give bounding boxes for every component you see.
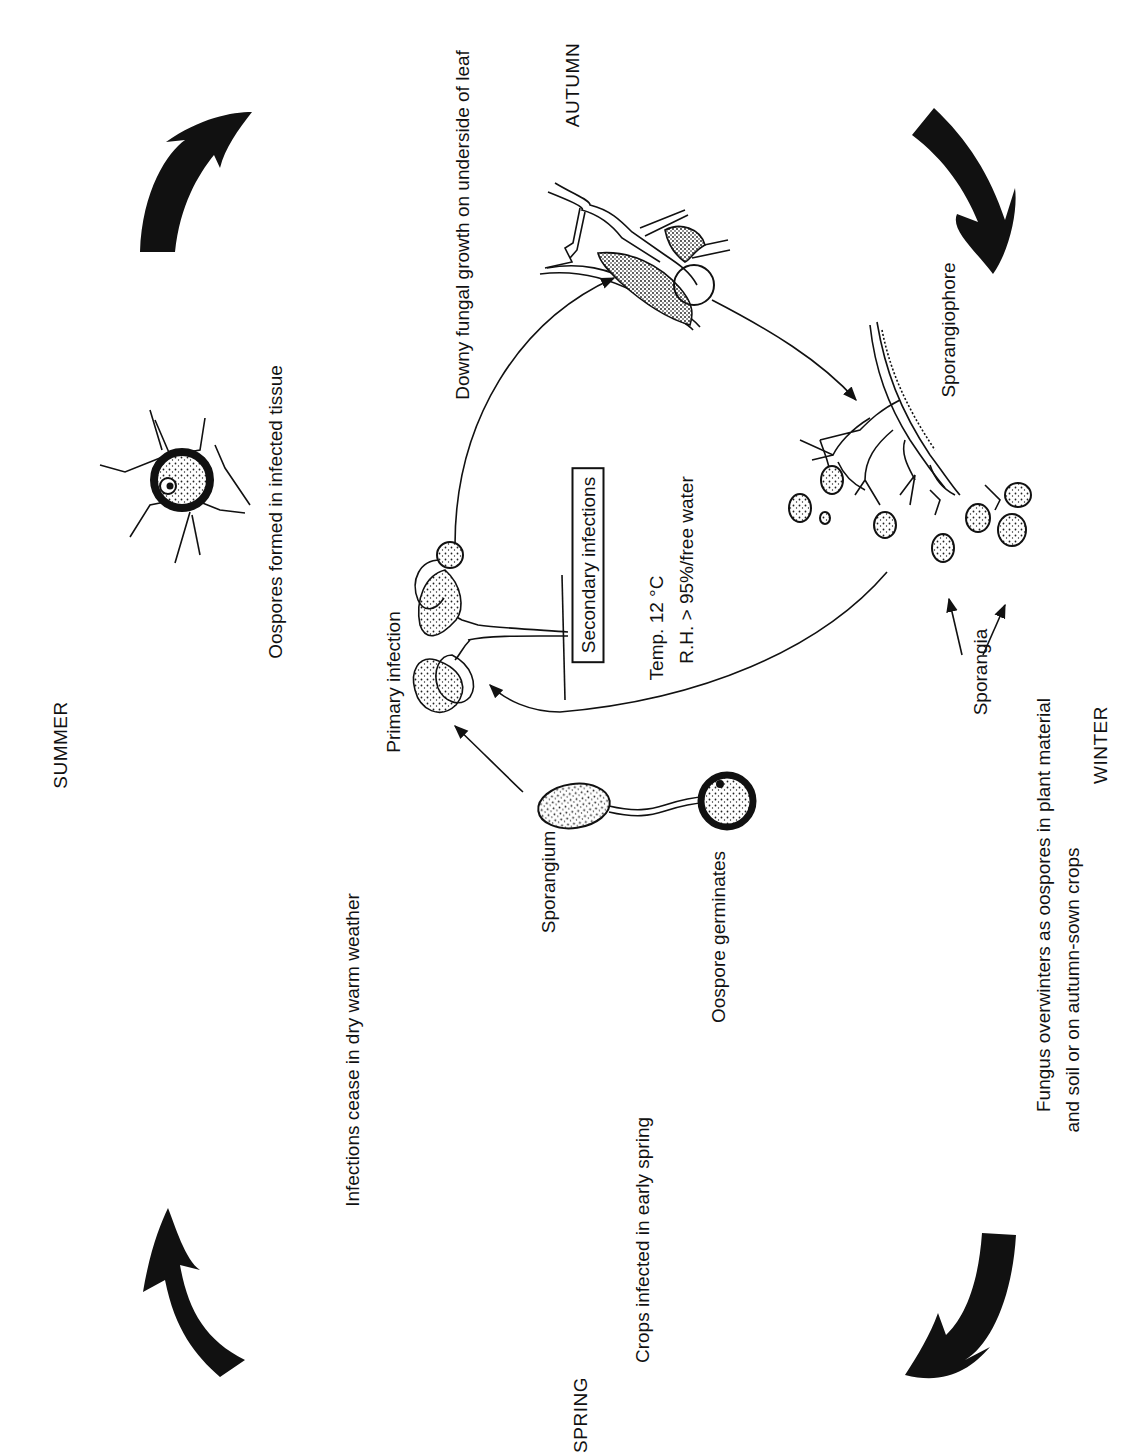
label-oospore-germinates: Oospore germinates bbox=[709, 851, 728, 1023]
label-sporangium: Sporangium bbox=[539, 831, 558, 933]
label-temperature: Temp. 12 °C bbox=[647, 576, 666, 681]
season-arrow-bottom-right bbox=[905, 1233, 1016, 1378]
label-overwinter-line2: and soil or on autumn-sown crops bbox=[1063, 847, 1082, 1132]
season-arrow-top-right bbox=[912, 108, 1016, 274]
season-label-spring: SPRING bbox=[571, 1377, 590, 1453]
label-primary-infection: Primary infection bbox=[384, 611, 403, 753]
season-label-autumn: AUTUMN bbox=[563, 43, 582, 127]
label-sporangiophore: Sporangiophore bbox=[939, 262, 958, 397]
label-crops-infected: Crops infected in early spring bbox=[633, 1117, 652, 1363]
infected-leaf-drawing bbox=[540, 183, 730, 330]
label-secondary-infections: Secondary infections bbox=[572, 467, 605, 663]
season-arrow-top-left bbox=[140, 112, 252, 252]
germinating-oospore-drawing bbox=[535, 775, 753, 833]
season-label-winter: WINTER bbox=[1091, 706, 1110, 784]
season-arrow-bottom-left bbox=[143, 1208, 245, 1377]
label-oospores-formed: Oospores formed in infected tissue bbox=[266, 365, 285, 659]
label-infections-cease: Infections cease in dry warm weather bbox=[343, 893, 362, 1207]
label-overwinter-line1: Fungus overwinters as oospores in plant … bbox=[1034, 698, 1053, 1112]
sporangiophore-drawing bbox=[789, 322, 1031, 562]
oospore-in-tissue-drawing bbox=[100, 410, 250, 563]
label-sporangia: Sporangia bbox=[971, 629, 990, 716]
label-downy-growth: Downy fungal growth on underside of leaf bbox=[453, 50, 472, 400]
season-label-summer: SUMMER bbox=[51, 701, 70, 788]
label-humidity: R.H. > 95%/free water bbox=[677, 476, 696, 663]
cycle-connectors bbox=[455, 278, 1005, 792]
